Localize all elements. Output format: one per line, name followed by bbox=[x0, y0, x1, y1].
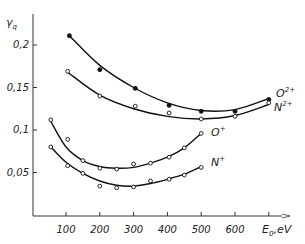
x-tick-label: 100 bbox=[56, 224, 75, 235]
data-point-O+ bbox=[115, 167, 119, 171]
data-point-N+ bbox=[132, 185, 136, 189]
data-point-O2+ bbox=[67, 34, 71, 38]
data-point-N+ bbox=[66, 164, 70, 168]
y-tick-label: 0,1 bbox=[13, 124, 29, 135]
chart: 0,050,10,150,2100200300400500600γqE0,eV … bbox=[0, 0, 305, 244]
data-point-O2+ bbox=[167, 103, 171, 107]
x-tick-label: 300 bbox=[124, 224, 143, 235]
data-point-O2+ bbox=[98, 68, 102, 72]
y-tick-label: 0,2 bbox=[13, 39, 29, 50]
data-point-O+ bbox=[66, 137, 70, 141]
x-axis-arrow-icon bbox=[282, 214, 290, 218]
data-point-N+ bbox=[49, 145, 53, 149]
data-point-N+ bbox=[167, 177, 171, 181]
series-label-N+: N+ bbox=[211, 155, 225, 169]
data-point-N2+ bbox=[98, 94, 102, 98]
data-point-N+ bbox=[182, 173, 186, 177]
data-point-N2+ bbox=[133, 104, 137, 108]
y-tick-label: 0,05 bbox=[7, 167, 29, 178]
data-point-N2+ bbox=[167, 111, 171, 115]
fit-curve-O+ bbox=[51, 122, 201, 169]
x-axis-label: E0,eV bbox=[262, 223, 293, 238]
data-point-O+ bbox=[81, 159, 85, 163]
data-point-N2+ bbox=[233, 115, 237, 119]
x-tick-label: 600 bbox=[225, 224, 244, 235]
y-axis-label: γq bbox=[6, 16, 18, 31]
data-point-N+ bbox=[98, 184, 102, 188]
data-point-O+ bbox=[149, 161, 153, 165]
data-point-O+ bbox=[98, 166, 102, 170]
data-point-N2+ bbox=[66, 69, 70, 73]
data-point-N+ bbox=[149, 179, 153, 183]
axes: 0,050,10,150,2100200300400500600γqE0,eV bbox=[6, 14, 293, 238]
series-label-N2+: N2+ bbox=[274, 100, 293, 114]
data-point-O+ bbox=[167, 155, 171, 159]
series-labels: O2+N2+O+N+ bbox=[211, 86, 295, 169]
x-tick-label: 200 bbox=[90, 224, 109, 235]
x-tick-label: 400 bbox=[158, 224, 177, 235]
y-tick-label: 0,15 bbox=[7, 82, 29, 93]
data-point-O+ bbox=[199, 132, 203, 136]
data-point-O+ bbox=[49, 118, 53, 122]
data-point-N+ bbox=[81, 171, 85, 175]
data-point-O+ bbox=[132, 162, 136, 166]
data-point-N+ bbox=[115, 186, 119, 190]
data-point-O2+ bbox=[133, 86, 137, 90]
data-point-N2+ bbox=[267, 101, 271, 105]
series-label-O+: O+ bbox=[211, 125, 226, 139]
x-tick-label: 500 bbox=[192, 224, 211, 235]
data-point-N+ bbox=[199, 166, 203, 170]
data-point-O+ bbox=[182, 146, 186, 150]
data-point-O2+ bbox=[199, 109, 203, 113]
data-point-N2+ bbox=[199, 117, 203, 121]
fit-curve-N+ bbox=[51, 147, 201, 186]
data-points bbox=[49, 34, 271, 190]
series-label-O2+: O2+ bbox=[276, 86, 295, 100]
data-point-O2+ bbox=[233, 109, 237, 113]
fit-curve-O2+ bbox=[69, 36, 268, 112]
